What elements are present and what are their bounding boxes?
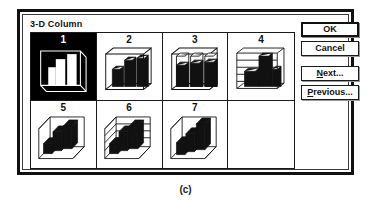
thumbnail-3d-column-100-percent bbox=[167, 45, 224, 96]
gallery-cell-6-number: 6 bbox=[97, 102, 162, 113]
thumbnail-3d-column-perspective-wall bbox=[167, 113, 224, 165]
cancel-button[interactable]: Cancel bbox=[301, 41, 359, 56]
gallery-cell-3[interactable]: 3 bbox=[163, 33, 229, 101]
gallery-cell-4[interactable]: 4 bbox=[228, 33, 294, 101]
chart-gallery-dialog: 3-D Column 1 bbox=[17, 9, 354, 175]
gallery-cell-2[interactable]: 2 bbox=[97, 33, 163, 101]
ok-button-label: OK bbox=[323, 25, 337, 34]
gallery-cell-2-number: 2 bbox=[97, 34, 162, 45]
previous-button-label: Previous... bbox=[307, 88, 353, 97]
cancel-button-label: Cancel bbox=[315, 44, 345, 53]
gallery-cell-3-number: 3 bbox=[163, 34, 228, 45]
group-title: 3-D Column bbox=[30, 19, 83, 29]
gallery-cell-1-number: 1 bbox=[31, 34, 96, 45]
thumbnail-3d-area-ribbon bbox=[232, 45, 290, 96]
dialog-inner-frame: 3-D Column 1 bbox=[22, 14, 349, 170]
next-button-label: Next... bbox=[316, 69, 343, 78]
figure-caption: (c) bbox=[0, 184, 371, 195]
thumbnail-3d-column-perspective-grid bbox=[101, 113, 158, 165]
gallery-cell-6[interactable]: 6 bbox=[97, 101, 163, 169]
gallery-cell-5[interactable]: 5 bbox=[31, 101, 97, 169]
gallery-cell-1[interactable]: 1 bbox=[31, 33, 97, 101]
gallery-cell-5-number: 5 bbox=[31, 102, 96, 113]
thumbnail-3d-column-clustered bbox=[35, 45, 92, 96]
gallery-cell-8-empty[interactable] bbox=[228, 101, 294, 169]
screenshot-root: 3-D Column 1 bbox=[0, 0, 371, 206]
gallery-cell-7[interactable]: 7 bbox=[163, 101, 229, 169]
next-button[interactable]: Next... bbox=[301, 66, 359, 81]
previous-button[interactable]: Previous... bbox=[301, 85, 359, 100]
chart-type-gallery[interactable]: 1 bbox=[30, 32, 295, 169]
gallery-cell-4-number: 4 bbox=[228, 34, 294, 45]
ok-button[interactable]: OK bbox=[301, 22, 359, 37]
gallery-cell-7-number: 7 bbox=[163, 102, 228, 113]
thumbnail-3d-column-stacked bbox=[101, 45, 158, 96]
thumbnail-3d-column-perspective bbox=[35, 113, 92, 165]
